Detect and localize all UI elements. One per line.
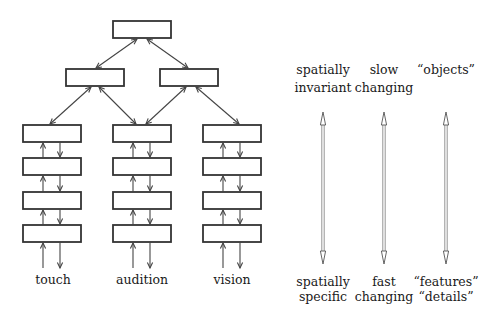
gradient-bottom-label: changing (355, 289, 414, 304)
bidirectional-arrow (99, 87, 136, 124)
gradient-bottom-label: spatially (296, 274, 350, 289)
gradient-abstraction: “objects” “features” “details” (413, 62, 478, 304)
hierarchy-diagram: touch audition vision spatially invarian… (0, 0, 496, 320)
gradient-spatial: spatially invariant spatially specific (294, 62, 351, 304)
gradient-temporal: slow changing fast changing (355, 62, 414, 304)
audition-stack-box-3 (113, 192, 171, 209)
middle-right-node (160, 69, 218, 86)
gradient-top-label: spatially (296, 62, 350, 77)
middle-left-node (66, 69, 124, 86)
bidirectional-arrow (50, 87, 91, 124)
gradient-bottom-label: “details” (418, 289, 473, 304)
arrowhead-down (381, 251, 386, 264)
arrowhead-down (443, 251, 448, 264)
gradient-bottom-label: fast (372, 274, 396, 289)
gradient-top-label: invariant (294, 80, 351, 95)
touch-stack-box-4 (23, 225, 81, 242)
gradient-bottom-label: “features” (413, 274, 478, 289)
touch-stack-box-3 (23, 192, 81, 209)
audition-stack-box-2 (113, 158, 171, 175)
audition-stack-box-4 (113, 225, 171, 242)
modality-label-audition: audition (116, 272, 168, 287)
vision-stack-box-2 (203, 158, 261, 175)
vision-stack-box-3 (203, 192, 261, 209)
gradient-top-label: changing (355, 80, 414, 95)
vision-stack-box-1 (203, 125, 261, 142)
arrowhead-up (443, 112, 448, 125)
bidirectional-arrow (196, 87, 239, 124)
bidirectional-arrow (146, 87, 186, 124)
gradient-top-label: slow (370, 62, 399, 77)
modality-label-touch: touch (35, 272, 71, 287)
audition-stack-box-1 (113, 125, 171, 142)
vision-stack-box-4 (203, 225, 261, 242)
top-node (113, 21, 171, 38)
bidirectional-arrow (147, 39, 188, 68)
arrowhead-down (320, 251, 325, 264)
node-boxes (23, 21, 261, 242)
arrowhead-up (320, 112, 325, 125)
arrowhead-up (381, 112, 386, 125)
touch-stack-box-1 (23, 125, 81, 142)
gradient-arrows (320, 112, 448, 264)
modality-label-vision: vision (212, 272, 250, 287)
bidirectional-arrow (96, 39, 137, 68)
gradient-bottom-label: specific (299, 289, 347, 304)
touch-stack-box-2 (23, 158, 81, 175)
gradient-top-label: “objects” (417, 62, 475, 77)
